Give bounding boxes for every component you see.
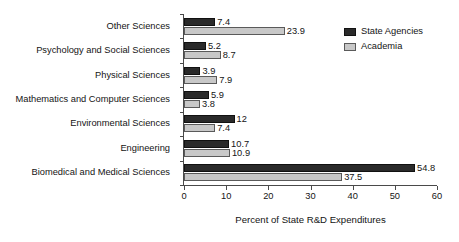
bar-value-label: 7.9 bbox=[219, 75, 232, 85]
x-axis-tick bbox=[437, 186, 438, 190]
bar-value-label: 3.8 bbox=[202, 99, 215, 109]
category-label: Mathematics and Computer Sciences bbox=[15, 94, 170, 104]
bar bbox=[184, 115, 235, 123]
y-axis-tick bbox=[180, 63, 184, 64]
category-label: Environmental Sciences bbox=[70, 118, 170, 128]
x-axis-tick bbox=[268, 186, 269, 190]
x-axis-tick-label: 50 bbox=[380, 191, 410, 202]
category-label: Psychology and Social Sciences bbox=[36, 45, 170, 55]
bar-value-label: 7.4 bbox=[217, 17, 230, 27]
x-axis-tick-label: 20 bbox=[253, 191, 283, 202]
bar-value-label: 37.5 bbox=[344, 172, 362, 182]
x-axis-tick-label: 30 bbox=[296, 191, 326, 202]
bar bbox=[184, 42, 206, 50]
x-axis-tick bbox=[353, 186, 354, 190]
legend-swatch-icon bbox=[344, 43, 356, 51]
category-label: Other Sciences bbox=[106, 21, 170, 31]
x-axis-tick bbox=[395, 186, 396, 190]
legend-label: Academia bbox=[361, 41, 402, 52]
x-axis-tick bbox=[184, 186, 185, 190]
bar-value-label: 10.9 bbox=[232, 148, 250, 158]
category-label: Engineering bbox=[120, 143, 170, 153]
x-axis-tick-label: 60 bbox=[422, 191, 452, 202]
bar-chart: Other SciencesPsychology and Social Scie… bbox=[0, 0, 459, 242]
bar bbox=[184, 91, 209, 99]
bar bbox=[184, 173, 342, 181]
bar-value-label: 8.7 bbox=[223, 50, 236, 60]
bar-value-label: 3.9 bbox=[202, 66, 215, 76]
y-axis-tick bbox=[180, 136, 184, 137]
bar bbox=[184, 18, 215, 26]
bar-value-label: 7.4 bbox=[217, 123, 230, 133]
x-axis-tick-label: 40 bbox=[338, 191, 368, 202]
category-label: Physical Sciences bbox=[95, 70, 170, 80]
bar bbox=[184, 164, 415, 172]
bar bbox=[184, 67, 200, 75]
x-axis-title: Percent of State R&D Expenditures bbox=[184, 214, 437, 225]
y-axis-tick bbox=[180, 87, 184, 88]
chart-legend: State AgenciesAcademia bbox=[344, 24, 456, 54]
bar bbox=[184, 27, 285, 35]
y-axis-tick bbox=[180, 14, 184, 15]
y-axis-tick bbox=[180, 161, 184, 162]
bar bbox=[184, 140, 229, 148]
bar bbox=[184, 149, 230, 157]
bar-value-label: 23.9 bbox=[287, 26, 305, 36]
x-axis-tick bbox=[226, 186, 227, 190]
bar-value-label: 12 bbox=[237, 114, 247, 124]
x-axis-tick-label: 0 bbox=[169, 191, 199, 202]
bar bbox=[184, 100, 200, 108]
legend-item: Academia bbox=[344, 39, 456, 54]
category-label: Biomedical and Medical Sciences bbox=[32, 167, 171, 177]
bar-value-label: 54.8 bbox=[417, 163, 435, 173]
y-axis-tick bbox=[180, 112, 184, 113]
legend-swatch-icon bbox=[344, 28, 356, 36]
bar-value-label: 5.2 bbox=[208, 41, 221, 51]
bar bbox=[184, 124, 215, 132]
legend-item: State Agencies bbox=[344, 24, 456, 39]
bar bbox=[184, 51, 221, 59]
y-axis-tick bbox=[180, 38, 184, 39]
bar bbox=[184, 76, 217, 84]
x-axis-tick bbox=[311, 186, 312, 190]
y-axis-category-labels: Other SciencesPsychology and Social Scie… bbox=[0, 14, 176, 185]
legend-label: State Agencies bbox=[361, 26, 423, 37]
x-axis-tick-label: 10 bbox=[211, 191, 241, 202]
